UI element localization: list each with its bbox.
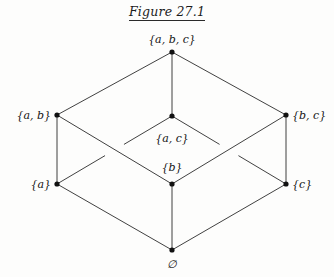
node-label-empty: ∅ [167,259,177,270]
node-dot-ab [54,112,59,117]
edge-abc-ab [59,53,170,114]
node-dot-c [283,181,288,186]
node-dot-abc [169,49,174,54]
node-dot-empty [169,247,174,252]
node-dot-b [169,181,174,186]
edge-c-empty [174,185,285,249]
edge-a-empty [59,185,171,249]
node-dot-bc [283,112,288,117]
node-dot-a [54,181,59,186]
node-dot-ac [169,113,174,118]
node-label-ab: {a, b} [16,110,51,121]
node-label-a: {a} [30,179,51,190]
node-label-c: {c} [292,179,312,190]
node-label-bc: {b, c} [292,110,326,121]
node-layer [54,49,288,252]
node-label-ac: {a, c} [155,133,189,144]
edge-layer [57,53,286,249]
node-label-b: {b} [161,162,182,173]
node-label-abc: {a, b, c} [148,34,196,45]
edge-abc-bc [174,53,284,114]
figure-page: Figure 27.1 {a, b, c}{a, b}{a, c}{b, c}{… [0,0,334,277]
